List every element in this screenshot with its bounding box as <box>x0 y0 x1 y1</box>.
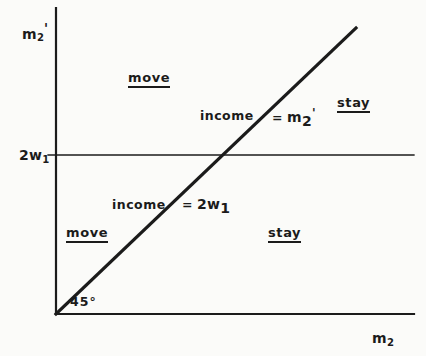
income-equation-upper-lead: income <box>200 110 254 123</box>
income-equation-lower-sub: 1 <box>220 200 230 216</box>
income-equation-upper-rhs: =m2' <box>272 108 316 128</box>
y-axis-label-prime: ' <box>44 21 48 36</box>
income-equation-upper-prime: ' <box>312 106 316 120</box>
income-equation-upper-equals: = <box>272 110 283 125</box>
income-equation-upper-sub: 2 <box>302 113 312 129</box>
diagonal-45-line <box>56 28 356 314</box>
diagram-canvas <box>0 0 426 356</box>
region-label-move-upper: move <box>128 71 170 88</box>
y-axis-label-base: m <box>22 26 37 42</box>
x-axis-label-subscript: 2 <box>387 337 394 348</box>
y-axis-label-subscript: 2 <box>37 32 44 43</box>
tick-label-subscript: 1 <box>42 154 49 165</box>
degree-symbol: ° <box>89 294 96 309</box>
x-axis-label-base: m <box>372 330 387 346</box>
phase-diagram-figure: m2' 2w1 m2 move stay move stay income =m… <box>0 0 426 356</box>
y-axis-label: m2' <box>22 22 48 43</box>
tick-label-base: 2w <box>19 147 42 163</box>
region-label-move-lower: move <box>66 226 108 243</box>
income-equation-lower-rhs: =2w1 <box>182 197 230 215</box>
region-label-stay-upper: stay <box>337 96 370 113</box>
region-label-stay-lower: stay <box>268 226 301 243</box>
x-axis-label: m2 <box>372 331 394 348</box>
income-equation-upper-var: m <box>287 109 302 125</box>
income-equation-lower-var: 2w <box>197 196 220 212</box>
y-axis-tick-label-2w1: 2w1 <box>19 148 49 165</box>
income-equation-lower-lead: income <box>112 199 166 212</box>
angle-45-value: 45 <box>70 294 89 309</box>
angle-45-degree-label: 45° <box>70 296 97 309</box>
income-equation-lower-equals: = <box>182 197 193 212</box>
